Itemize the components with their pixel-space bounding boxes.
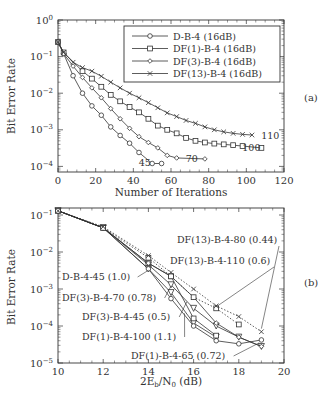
series-marker <box>221 142 226 147</box>
series-marker <box>203 157 208 162</box>
series-marker <box>169 296 174 301</box>
series-marker <box>191 295 196 300</box>
legend: D-B-4 (16dB)DF(1)-B-4 (16dB)DF(3)-B-4 (1… <box>124 26 280 82</box>
series-marker <box>146 140 151 145</box>
series-marker <box>156 105 161 110</box>
series-marker <box>259 338 264 343</box>
series-marker <box>146 100 151 105</box>
series-marker <box>137 95 142 100</box>
y-tick-label: 10−5 <box>30 357 53 369</box>
series-marker <box>174 131 179 136</box>
series-marker <box>90 69 95 74</box>
series-marker <box>203 125 208 130</box>
annotation-label: DF(3)-B-4-45 (0.5) <box>82 311 170 322</box>
x-tick-label: 40 <box>127 175 140 186</box>
series-marker <box>90 104 95 109</box>
y-tick-label: 10−2 <box>30 246 53 258</box>
chart-panel-a: 02040608010012010010−110−210−310−4457010… <box>30 14 294 187</box>
series-marker <box>118 86 123 91</box>
series-marker <box>146 116 151 121</box>
annotation-label: DF(13)-B-4-110 (0.6) <box>170 255 270 266</box>
series-marker <box>99 84 104 89</box>
series-marker <box>155 123 160 128</box>
x-tick-label: 20 <box>278 366 291 377</box>
x-tick-label: 12 <box>97 366 110 377</box>
iteration-label-70: 70 <box>186 153 198 164</box>
series-marker <box>184 118 189 123</box>
annotation-label: DF(1)-B-4-65 (0.72) <box>131 350 225 361</box>
series-marker <box>159 161 164 166</box>
x-tick-label: 80 <box>202 175 215 186</box>
y-tick-label: 10−4 <box>30 320 54 332</box>
annotation: DF(3)-B-4-70 (0.78) <box>62 286 171 303</box>
annotation: DF(13)-B-4-80 (0.44) <box>177 234 279 329</box>
y-tick-label: 10−2 <box>30 87 53 99</box>
panel-a-ylabel: Bit Error Rate <box>5 58 17 134</box>
series-marker <box>191 324 196 329</box>
y-tick-label: 10−1 <box>30 209 53 221</box>
panel-b-xlabel: 2Eb/N0 (dB) <box>140 375 202 389</box>
series-marker <box>90 76 95 81</box>
x-tick-label: 20 <box>89 175 102 186</box>
series-marker <box>127 105 132 110</box>
legend-label: DF(3)-B-4 (16dB) <box>173 56 256 67</box>
series-marker <box>108 80 113 85</box>
annotation: DF(13)-B-4-110 (0.6) <box>170 255 274 307</box>
series-marker <box>191 287 196 292</box>
series-marker <box>118 99 123 104</box>
panel-b-ylabel: Bit Error Rate <box>5 249 17 325</box>
series-marker <box>191 316 196 321</box>
series-marker <box>165 127 170 132</box>
series-marker <box>214 333 219 338</box>
x-tick-label: 0 <box>55 175 61 186</box>
series-marker <box>214 338 219 343</box>
legend-label: DF(13)-B-4 (16dB) <box>173 68 262 79</box>
series-marker <box>71 73 76 78</box>
series-marker <box>99 113 104 118</box>
series-marker <box>203 140 208 145</box>
legend-marker <box>148 34 153 39</box>
chart-panel-b: 10121416182010−110−210−310−410−5D-B-4-45… <box>30 208 290 377</box>
iteration-label-110: 110 <box>261 130 279 141</box>
series-marker <box>237 342 242 347</box>
series-marker <box>174 114 179 119</box>
legend-label: DF(1)-B-4 (16dB) <box>173 43 256 54</box>
series-marker <box>108 92 113 97</box>
iteration-label-100: 100 <box>242 142 260 153</box>
legend-marker <box>148 46 153 51</box>
y-tick-label: 10−1 <box>30 50 53 62</box>
y-tick-label: 10−3 <box>30 283 53 295</box>
series-marker <box>184 136 189 141</box>
series-marker <box>165 111 170 116</box>
legend-label: D-B-4 (16dB) <box>173 31 236 42</box>
panel-a-xlabel: Number of Iterations <box>115 186 228 198</box>
x-tick-label: 10 <box>52 366 65 377</box>
figure: 02040608010012010010−110−210−310−4457010… <box>0 0 332 402</box>
annotation: DF(3)-B-4-45 (0.5) <box>82 302 187 322</box>
panel-b-tag: (b) <box>304 277 318 288</box>
annotation-label: DF(3)-B-4-70 (0.78) <box>62 292 156 303</box>
series-marker <box>127 91 132 96</box>
series-marker <box>193 121 198 126</box>
series-marker <box>137 150 142 155</box>
annotation-label: DF(13)-B-4-80 (0.44) <box>177 234 277 245</box>
series-marker <box>80 91 85 96</box>
y-tick-label: 10−3 <box>30 123 53 135</box>
series-marker <box>174 156 179 161</box>
x-tick-label: 100 <box>237 175 256 186</box>
x-tick-label: 18 <box>232 366 245 377</box>
series-marker <box>99 74 104 79</box>
series-marker <box>137 110 142 115</box>
x-tick-label: 120 <box>274 175 293 186</box>
iteration-label-45: 45 <box>139 157 151 168</box>
annotation-label: D-B-4-45 (1.0) <box>62 271 130 282</box>
series-marker <box>212 141 217 146</box>
x-tick-label: 60 <box>165 175 178 186</box>
annotation-label: DF(1)-B-4-100 (1.1) <box>82 331 176 342</box>
y-tick-label: 100 <box>36 14 53 26</box>
series-marker <box>108 125 113 130</box>
series-marker <box>118 133 123 138</box>
series-marker <box>231 143 236 148</box>
series-marker <box>193 138 198 143</box>
panel-a-tag: (a) <box>304 92 318 103</box>
